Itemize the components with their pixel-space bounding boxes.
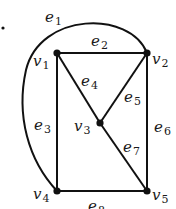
edge-label-name: e [154, 118, 163, 136]
edge-label-subscript: 2 [101, 39, 108, 52]
vertex-label-subscript: 4 [42, 192, 49, 205]
edge-label-name: e [34, 116, 43, 134]
vertex-label-v4: v4 [33, 185, 49, 205]
edge-label-name: e [88, 197, 97, 209]
vertex-label-subscript: 1 [42, 59, 49, 72]
edge-label-e5: e5 [124, 88, 141, 108]
edge-label-name: e [45, 8, 54, 26]
edge-label-e7: e7 [123, 138, 140, 158]
stray-dot [1, 26, 4, 29]
edge-label-subscript: 7 [133, 145, 140, 158]
vertex-label-v1: v1 [33, 52, 49, 72]
edge-label-name: e [124, 88, 133, 106]
labels-layer: e1e2e3e4e5e6e7e8v1v2v3v4v5 [33, 8, 171, 209]
vertex-v4 [53, 187, 60, 194]
vertex-label-name: v [33, 185, 42, 203]
vertex-label-name: v [152, 186, 161, 204]
edge-label-name: e [81, 72, 90, 90]
vertex-label-v5: v5 [152, 186, 168, 206]
vertex-v2 [143, 49, 150, 56]
edge-e1 [23, 23, 147, 191]
edge-label-name: e [91, 32, 100, 50]
graph-diagram: e1e2e3e4e5e6e7e8v1v2v3v4v5 [0, 0, 176, 209]
edge-label-subscript: 5 [134, 95, 141, 108]
vertex-v3 [96, 119, 103, 126]
edges-layer [23, 23, 147, 191]
vertex-v1 [53, 49, 60, 56]
vertex-label-name: v [152, 50, 161, 68]
vertex-label-name: v [74, 117, 83, 135]
vertex-label-v3: v3 [74, 117, 90, 137]
edge-label-subscript: 6 [164, 125, 171, 138]
edge-label-subscript: 4 [91, 79, 98, 92]
edge-label-e3: e3 [34, 116, 51, 136]
edge-label-subscript: 1 [55, 15, 62, 28]
vertex-label-name: v [33, 52, 42, 70]
vertex-label-v2: v2 [152, 50, 168, 70]
edge-e7 [100, 123, 147, 191]
vertex-label-subscript: 2 [161, 57, 168, 70]
edge-label-e2: e2 [91, 32, 108, 52]
edge-label-subscript: 3 [44, 123, 51, 136]
vertex-v5 [143, 187, 150, 194]
vertex-label-subscript: 3 [83, 124, 90, 137]
edge-label-e8: e8 [88, 197, 105, 209]
edge-label-subscript: 8 [98, 204, 105, 209]
edge-label-e1: e1 [45, 8, 62, 28]
edge-label-e6: e6 [154, 118, 171, 138]
edge-label-e4: e4 [81, 72, 98, 92]
vertex-label-subscript: 5 [161, 193, 168, 206]
edge-label-name: e [123, 138, 132, 156]
